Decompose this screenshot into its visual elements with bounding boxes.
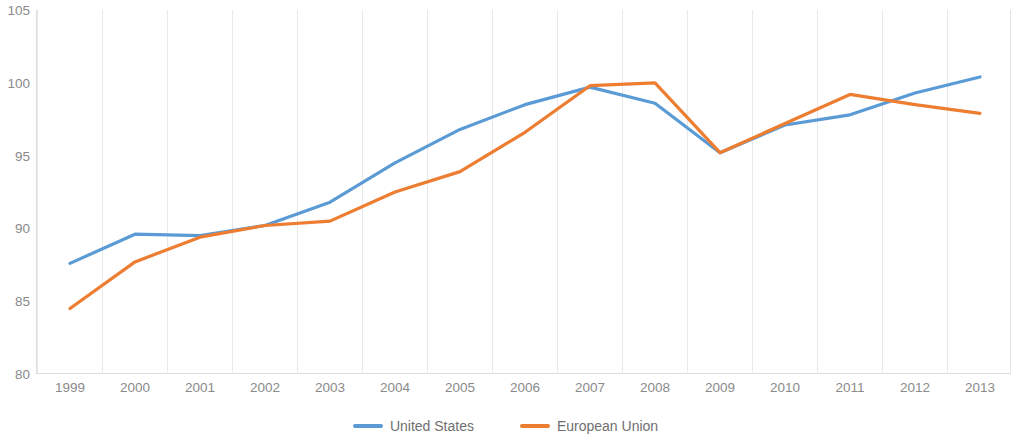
x-tick-label: 2002 xyxy=(250,380,280,395)
y-tick-label: 100 xyxy=(0,75,30,90)
legend-item[interactable]: United States xyxy=(353,418,474,434)
legend-swatch-icon xyxy=(353,424,383,428)
y-tick-label: 95 xyxy=(0,148,30,163)
x-tick-label: 2007 xyxy=(575,380,605,395)
x-tick-label: 2001 xyxy=(185,380,215,395)
y-tick-label: 105 xyxy=(0,3,30,18)
series-lines xyxy=(36,10,1011,374)
x-tick-label: 2008 xyxy=(640,380,670,395)
x-tick-label: 2009 xyxy=(705,380,735,395)
x-tick-label: 2013 xyxy=(965,380,995,395)
x-tick-label: 2010 xyxy=(770,380,800,395)
line-chart: 10510095908580 1999200020012002200320042… xyxy=(0,0,1011,440)
x-tick-label: 2012 xyxy=(900,380,930,395)
x-tick-label: 2006 xyxy=(510,380,540,395)
x-tick-label: 2003 xyxy=(315,380,345,395)
y-tick-label: 90 xyxy=(0,221,30,236)
x-axis: 1999200020012002200320042005200620072008… xyxy=(0,380,1011,402)
legend-label: European Union xyxy=(557,418,658,434)
plot-area xyxy=(36,10,1011,374)
y-axis: 10510095908580 xyxy=(0,0,32,440)
x-tick-label: 2011 xyxy=(835,380,864,395)
y-tick-label: 85 xyxy=(0,294,30,309)
x-tick-label: 2005 xyxy=(445,380,475,395)
legend-swatch-icon xyxy=(520,424,550,428)
chart-legend: United StatesEuropean Union xyxy=(0,415,1011,437)
legend-label: United States xyxy=(390,418,474,434)
x-tick-label: 1999 xyxy=(55,380,85,395)
x-tick-label: 2000 xyxy=(120,380,150,395)
x-tick-label: 2004 xyxy=(380,380,410,395)
legend-item[interactable]: European Union xyxy=(520,418,658,434)
